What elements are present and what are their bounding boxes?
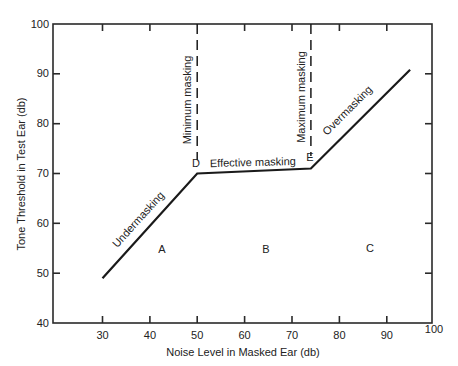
x-tick-label: 80: [333, 329, 345, 341]
x-tick-label: 60: [238, 329, 250, 341]
x-tick-label: 100: [425, 323, 443, 335]
y-axis-ticks-left: [53, 74, 60, 273]
x-tick-label: 70: [286, 329, 298, 341]
region-b-label: B: [262, 243, 269, 255]
y-tick-label: 60: [37, 217, 49, 229]
x-axis-ticks-bottom: [103, 316, 387, 323]
minimum-masking-label: Minimum masking: [181, 56, 193, 145]
x-tick-label: 50: [191, 329, 203, 341]
overmasking-label: Overmasking: [320, 83, 374, 137]
x-tick-labels: 30 40 50 60 70 80 90 100: [96, 323, 443, 341]
x-tick-label: 90: [381, 329, 393, 341]
region-c-label: C: [366, 242, 374, 254]
point-e-label: E: [306, 151, 313, 163]
y-tick-label: 50: [37, 267, 49, 279]
y-axis-title: Tone Threshold in Test Ear (db): [15, 97, 27, 250]
x-tick-label: 40: [144, 329, 156, 341]
region-a-label: A: [158, 243, 166, 255]
y-tick-label: 100: [31, 18, 49, 30]
y-tick-labels: 40 50 60 70 80 90 100: [31, 18, 49, 329]
y-tick-label: 90: [37, 67, 49, 79]
x-axis-title: Noise Level in Masked Ear (db): [166, 346, 319, 358]
y-tick-label: 70: [37, 167, 49, 179]
x-axis-ticks-top: [103, 24, 387, 31]
masking-chart: 30 40 50 60 70 80 90 100 40 50 60 70 80 …: [0, 0, 458, 366]
y-tick-label: 80: [37, 117, 49, 129]
y-axis-ticks-right: [425, 74, 432, 273]
effective-masking-label: Effective masking: [210, 155, 296, 169]
x-tick-label: 30: [96, 329, 108, 341]
plot-frame: [53, 24, 432, 323]
point-d-label: D: [192, 157, 200, 169]
y-tick-label: 40: [37, 317, 49, 329]
maximum-masking-label: Maximum masking: [295, 51, 307, 143]
